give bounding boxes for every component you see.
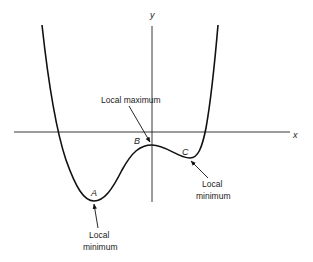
local-minimum-a-label-line2: minimum: [83, 242, 117, 252]
local-minimum-c-label-line2: minimum: [196, 191, 230, 201]
point-b-label: B: [134, 136, 140, 146]
local-minimum-c-arrow: [191, 161, 208, 178]
local-minimum-a-arrow: [94, 204, 98, 228]
local-minimum-a-label-line1: Local: [89, 230, 109, 240]
x-axis-label: x: [292, 130, 298, 140]
y-axis-label: y: [149, 10, 155, 20]
local-maximum-label: Local maximum: [101, 95, 161, 105]
point-a-label: A: [90, 188, 97, 198]
point-c-label: C: [182, 147, 189, 157]
local-minimum-c-label-line1: Local: [202, 179, 222, 189]
function-graph: x y Local maximum B C Local minimum A Lo…: [0, 0, 313, 262]
function-curve: [42, 25, 218, 201]
